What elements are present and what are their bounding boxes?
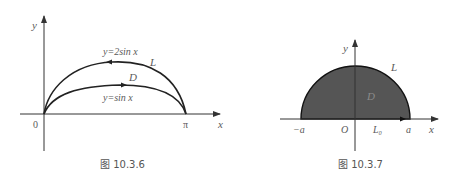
region-D-label: D <box>128 71 137 83</box>
segment-L0-label: L₀ <box>372 124 383 135</box>
eq-sinx-label: y=sin x <box>102 92 133 103</box>
origin-label: O <box>341 124 348 135</box>
curve-L-label: L <box>390 61 397 73</box>
eq-2sinx-label: y=2sin x <box>102 46 138 57</box>
neg-a-tick-label: −a <box>293 124 305 135</box>
x-axis-label: x <box>428 123 434 135</box>
pi-tick-label: π <box>183 119 188 130</box>
y-axis-label: y <box>342 42 348 54</box>
figure-caption: 图 10.3.6 <box>100 159 145 170</box>
curve-2sinx <box>44 62 186 114</box>
origin-label: 0 <box>33 119 38 130</box>
figure-caption: 图 10.3.7 <box>338 159 383 170</box>
a-tick-label: a <box>406 124 411 135</box>
figure-10-3-7: y x −a O L₀ a L D 图 10.3.7 <box>280 40 438 170</box>
figure-10-3-6: y x 0 π y=2sin x L D y=sin x 图 10.3.6 <box>20 16 223 170</box>
region-D-label: D <box>366 90 375 102</box>
arrow-icon <box>106 60 112 65</box>
x-axis-label: x <box>217 118 223 130</box>
arrow-icon <box>121 83 127 88</box>
y-axis-label: y <box>31 19 37 31</box>
curve-L-label: L <box>149 56 156 68</box>
figures-canvas: y x 0 π y=2sin x L D y=sin x 图 10.3.6 y … <box>0 0 457 184</box>
